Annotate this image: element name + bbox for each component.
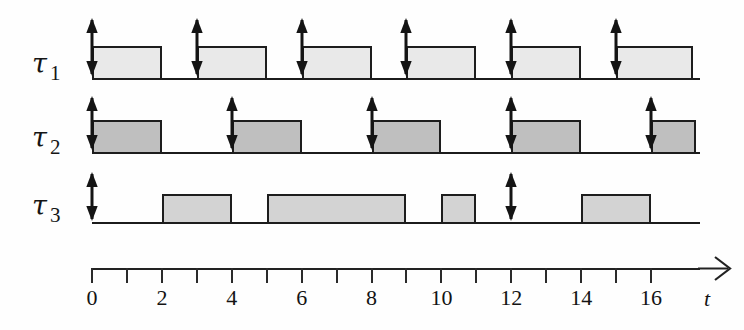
- time-axis-label-0: 0: [72, 285, 112, 311]
- task-label-tau3: τ3: [32, 190, 57, 221]
- tau-index-tau1: 1: [50, 61, 61, 85]
- release-arrow-tau3-0: [85, 172, 99, 221]
- exec-block-tau1-4: [511, 46, 581, 80]
- time-axis-tick-10: [440, 268, 442, 283]
- time-axis-tick-5: [266, 268, 268, 283]
- time-axis-tick-12: [510, 268, 512, 283]
- time-axis-tick-4: [231, 268, 233, 283]
- exec-block-tau1-3: [406, 46, 476, 80]
- release-arrow-tau1-1: [190, 18, 204, 76]
- release-arrow-tau1-4: [504, 18, 518, 76]
- tau-index-tau2: 2: [50, 135, 61, 159]
- time-axis-tick-11: [475, 268, 477, 283]
- time-axis-tick-0: [91, 268, 93, 283]
- time-axis-label-14: 14: [561, 285, 601, 311]
- release-arrow-tau2-1: [225, 96, 239, 150]
- release-arrow-tau2-2: [365, 96, 379, 150]
- tau-symbol-tau3: τ: [32, 190, 47, 221]
- time-axis-label-8: 8: [352, 285, 392, 311]
- time-axis-tick-1: [126, 268, 128, 283]
- exec-block-tau2-3: [511, 120, 581, 154]
- time-axis-tick-13: [545, 268, 547, 283]
- time-axis-label-10: 10: [421, 285, 461, 311]
- tau-symbol-tau2: τ: [32, 122, 47, 153]
- release-arrow-tau1-5: [609, 18, 623, 76]
- time-axis-tick-15: [615, 268, 617, 283]
- exec-block-tau1-1: [197, 46, 267, 80]
- release-arrow-tau3-1: [504, 172, 518, 221]
- time-axis-tick-3: [196, 268, 198, 283]
- task-label-tau1: τ1: [32, 48, 57, 79]
- time-axis-label-4: 4: [212, 285, 252, 311]
- exec-block-tau2-2: [372, 120, 442, 154]
- exec-block-tau1-0: [92, 46, 162, 80]
- exec-block-tau2-0: [92, 120, 162, 154]
- exec-block-tau3-3: [581, 194, 651, 224]
- time-axis-label-12: 12: [491, 285, 531, 311]
- release-arrow-tau2-4: [644, 96, 658, 150]
- time-axis-arrowhead: [698, 256, 732, 286]
- release-arrow-tau2-0: [85, 96, 99, 150]
- time-axis-tick-2: [161, 268, 163, 283]
- time-axis-variable-label: t: [704, 286, 710, 312]
- release-arrow-tau1-3: [399, 18, 413, 76]
- exec-block-tau3-2: [441, 194, 476, 224]
- exec-block-tau3-1: [267, 194, 407, 224]
- release-arrow-tau2-3: [504, 96, 518, 150]
- time-axis-tick-8: [371, 268, 373, 283]
- exec-block-tau3-0: [162, 194, 232, 224]
- baseline-tau1: [92, 78, 700, 80]
- time-axis-line: [92, 268, 700, 270]
- time-axis-label-16: 16: [631, 285, 671, 311]
- time-axis-tick-16: [650, 268, 652, 283]
- exec-block-tau1-5: [616, 46, 693, 80]
- exec-block-tau1-2: [302, 46, 372, 80]
- time-axis-tick-6: [301, 268, 303, 283]
- exec-block-tau2-1: [232, 120, 302, 154]
- tau-index-tau3: 3: [50, 203, 61, 227]
- time-axis-label-6: 6: [282, 285, 322, 311]
- tau-symbol-tau1: τ: [32, 48, 47, 79]
- release-arrow-tau1-0: [85, 18, 99, 76]
- release-arrow-tau1-2: [295, 18, 309, 76]
- time-axis-tick-9: [405, 268, 407, 283]
- task-label-tau2: τ2: [32, 122, 57, 153]
- time-axis-tick-7: [336, 268, 338, 283]
- schedule-figure: τ1τ2τ30246810121416t: [0, 0, 744, 330]
- time-axis-label-2: 2: [142, 285, 182, 311]
- time-axis-tick-14: [580, 268, 582, 283]
